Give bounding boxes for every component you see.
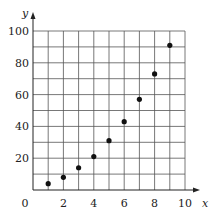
grid-lines [33, 31, 185, 190]
x-tick-label: 8 [151, 197, 158, 210]
y-tick-label: 80 [15, 57, 29, 70]
data-point [137, 97, 142, 102]
x-tick-label: 0 [22, 197, 29, 210]
y-tick-labels: 20406080100 [8, 25, 29, 165]
data-point [76, 165, 81, 170]
y-tick-label: 100 [8, 25, 29, 38]
data-point [61, 175, 66, 180]
x-tick-label: 4 [90, 197, 97, 210]
y-tick-label: 40 [15, 120, 29, 133]
data-point [122, 119, 127, 124]
x-axis-arrow-icon [193, 188, 200, 193]
y-axis-label: y [21, 7, 29, 20]
x-axis-label: x [202, 197, 209, 210]
y-tick-label: 60 [15, 89, 29, 102]
data-point [167, 43, 172, 48]
x-tick-labels: 0246810 [22, 197, 193, 210]
x-tick-label: 2 [60, 197, 67, 210]
x-tick-label: 10 [178, 197, 192, 210]
x-tick-label: 6 [121, 197, 128, 210]
data-point [91, 154, 96, 159]
y-tick-label: 20 [15, 152, 29, 165]
y-axis-arrow-icon [31, 12, 36, 19]
data-point [106, 138, 111, 143]
scatter-chart: x y 0246810 20406080100 [0, 0, 210, 216]
data-point [46, 181, 51, 186]
data-point [152, 71, 157, 76]
axes: x y [21, 7, 209, 210]
